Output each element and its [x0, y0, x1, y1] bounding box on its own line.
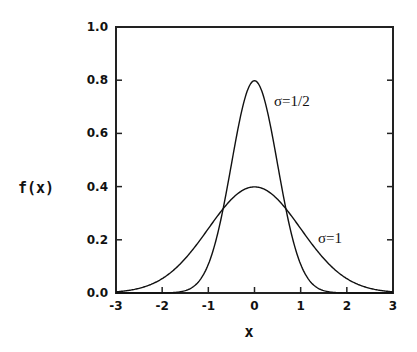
y-tick-label: 0.6: [87, 126, 108, 140]
y-tick-label: 1.0: [87, 20, 108, 34]
x-tick-label: -3: [109, 299, 122, 313]
y-tick-label: 0.4: [87, 180, 108, 194]
x-axis-ticks: -3-2-10123: [109, 287, 397, 313]
curve-sigma-one: [116, 187, 393, 292]
x-tick-label: 3: [389, 299, 397, 313]
x-tick-label: 0: [250, 299, 258, 313]
curves: [116, 81, 393, 293]
x-tick-label: -1: [202, 299, 215, 313]
annotation-sigma-half: σ=1/2: [274, 93, 310, 109]
x-tick-label: 1: [296, 299, 304, 313]
y-tick-label: 0.8: [87, 73, 108, 87]
plot-frame: [116, 27, 393, 293]
y-axis-ticks: 0.00.20.40.60.81.0: [87, 20, 393, 300]
y-tick-label: 0.0: [87, 286, 108, 300]
y-axis-label: f(x): [18, 179, 54, 197]
gaussian-chart: 0.00.20.40.60.81.0 -3-2-10123 f(x) x σ=1…: [0, 0, 417, 352]
x-axis-label: x: [244, 323, 253, 341]
x-tick-label: -2: [155, 299, 168, 313]
y-tick-label: 0.2: [87, 233, 108, 247]
x-tick-label: 2: [343, 299, 351, 313]
annotation-sigma-one: σ=1: [318, 230, 342, 246]
